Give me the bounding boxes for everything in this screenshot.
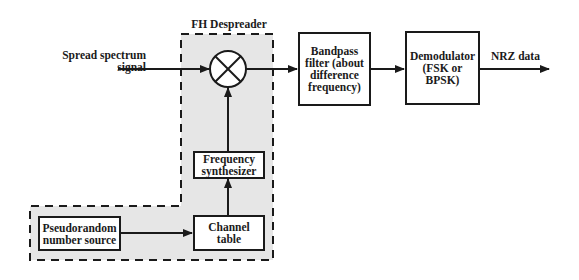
channel-table-label: Channel table [208, 221, 250, 245]
bandpass-filter-label: Bandpass filter (about difference freque… [305, 45, 364, 93]
pn-source-label: Pseudorandom number source [42, 222, 116, 246]
region-title: FH Despreader [186, 18, 272, 30]
channel-table-block: Channel table [193, 215, 265, 251]
input-label: Spread spectrum signal [50, 49, 146, 73]
demodulator-block: Demodulator (FSK or BPSK) [405, 31, 480, 105]
frequency-synthesizer-label: Frequency synthesizer [202, 153, 257, 177]
output-label: NRZ data [491, 50, 551, 62]
pn-source-block: Pseudorandom number source [38, 216, 121, 251]
frequency-synthesizer-block: Frequency synthesizer [193, 151, 265, 179]
mixer-icon [210, 51, 246, 87]
bandpass-filter-block: Bandpass filter (about difference freque… [298, 32, 371, 106]
demodulator-label: Demodulator (FSK or BPSK) [410, 50, 475, 86]
